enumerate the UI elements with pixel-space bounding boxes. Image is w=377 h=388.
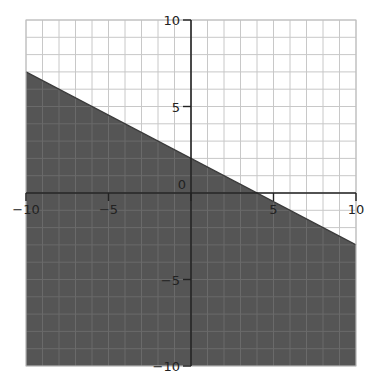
y-tick-label: 5: [172, 100, 180, 115]
x-tick-label: −5: [99, 202, 118, 217]
x-tick-label: 10: [348, 202, 365, 217]
x-tick-label: 0: [178, 177, 186, 192]
x-tick-label: −10: [12, 202, 39, 217]
inequality-graph: −10−50510−10−5510: [0, 0, 377, 388]
y-tick-label: 10: [163, 13, 180, 28]
x-tick-label: 5: [269, 202, 277, 217]
y-tick-label: −10: [153, 359, 180, 374]
y-tick-label: −5: [161, 273, 180, 288]
